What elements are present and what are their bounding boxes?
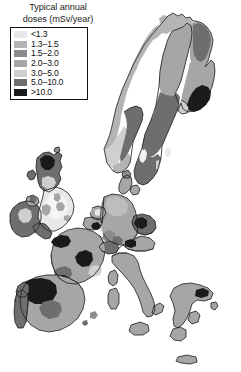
legend-title-line2: doses (mSv/year): [2, 14, 114, 26]
legend-swatch-6: [14, 89, 27, 96]
legend-swatch-3: [14, 60, 27, 67]
region-italy: [112, 253, 155, 317]
region-sweden-central: [142, 92, 180, 157]
legend-entry-6: >10.0: [14, 88, 85, 98]
legend-box: <1.3 1.3–1.5 1.5–2.0 2.0–3.0 3.0–5.0 5.0: [10, 27, 88, 100]
legend-swatch-0: [14, 31, 27, 38]
legend-title: Typical annual doses (mSv/year): [2, 2, 114, 25]
region-balearics: [90, 311, 98, 319]
radon-dose-figure: Typical annual doses (mSv/year) <1.3 1.3…: [0, 0, 241, 372]
legend-swatch-1: [14, 41, 27, 48]
region-sweden-gotland: [165, 148, 171, 157]
legend-swatch-2: [14, 50, 27, 57]
legend-swatch-4: [14, 70, 27, 77]
legend-label-3: 2.0–3.0: [31, 59, 59, 68]
region-balearics2: [82, 320, 88, 326]
legend-entry-3: 2.0–3.0: [14, 59, 85, 69]
legend-label-6: >10.0: [31, 88, 52, 97]
legend-title-line1: Typical annual: [2, 2, 114, 14]
legend-label-5: 5.0–10.0: [31, 78, 63, 87]
legend-swatch-5: [14, 79, 27, 86]
legend: Typical annual doses (mSv/year) <1.3 1.3…: [0, 0, 118, 100]
legend-label-0: <1.3: [31, 30, 47, 39]
